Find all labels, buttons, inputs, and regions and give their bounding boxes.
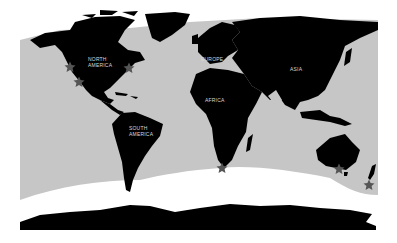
star-icon [333, 163, 345, 175]
world-map [0, 0, 397, 243]
star-icon [64, 61, 76, 73]
label-asia: ASIA [290, 66, 302, 72]
label-africa: AFRICA [205, 97, 225, 103]
star-icon [216, 162, 228, 174]
star-icon [363, 179, 375, 191]
star-icon [73, 76, 85, 88]
antarctica [20, 204, 376, 230]
label-europe: EUROPE [201, 56, 223, 62]
star-icon [123, 62, 135, 74]
label-north-america: NORTH AMERICA [88, 56, 112, 68]
label-south-america: SOUTH AMERICA [129, 125, 153, 137]
